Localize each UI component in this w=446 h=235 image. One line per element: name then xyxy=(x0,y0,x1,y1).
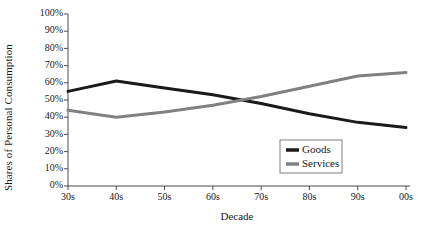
data-series-line xyxy=(68,81,406,127)
data-series-line xyxy=(68,72,406,117)
y-axis-tick-label: 100% xyxy=(40,7,63,18)
y-axis-tick-label: 40% xyxy=(45,110,63,121)
y-axis-tick-label: 0% xyxy=(50,179,63,190)
data-series-group xyxy=(68,72,406,127)
chart-legend: GoodsServices xyxy=(280,140,342,173)
x-axis-tick-marks xyxy=(68,186,406,190)
y-axis-tick-label: 20% xyxy=(45,145,63,156)
plot-area: 0%10%20%30%40%50%60%70%80%90%100% 30s40s… xyxy=(0,0,446,235)
chart-figure: Shares of Personal Consumption Decade 0%… xyxy=(0,0,446,235)
x-axis-tick-label: 60s xyxy=(206,191,220,202)
y-axis-tick-label: 60% xyxy=(45,76,63,87)
y-axis-tick-label: 10% xyxy=(45,162,63,173)
x-axis-tick-labels: 30s40s50s60s70s80s90s00s xyxy=(61,191,413,202)
y-axis-tick-label: 90% xyxy=(45,24,63,35)
legend-label: Services xyxy=(302,157,339,169)
x-axis-tick-label: 50s xyxy=(158,191,172,202)
x-axis-tick-label: 30s xyxy=(61,191,75,202)
y-axis-tick-label: 80% xyxy=(45,42,63,53)
x-axis-tick-label: 00s xyxy=(399,191,413,202)
y-axis-tick-labels: 0%10%20%30%40%50%60%70%80%90%100% xyxy=(40,7,63,190)
y-axis-tick-label: 50% xyxy=(45,93,63,104)
x-axis-tick-label: 90s xyxy=(351,191,365,202)
legend-label: Goods xyxy=(302,143,331,155)
y-axis-tick-label: 70% xyxy=(45,59,63,70)
y-axis-tick-marks xyxy=(64,14,68,186)
x-axis-tick-label: 40s xyxy=(109,191,123,202)
x-axis-tick-label: 80s xyxy=(302,191,316,202)
x-axis-tick-label: 70s xyxy=(254,191,268,202)
y-axis-tick-label: 30% xyxy=(45,128,63,139)
